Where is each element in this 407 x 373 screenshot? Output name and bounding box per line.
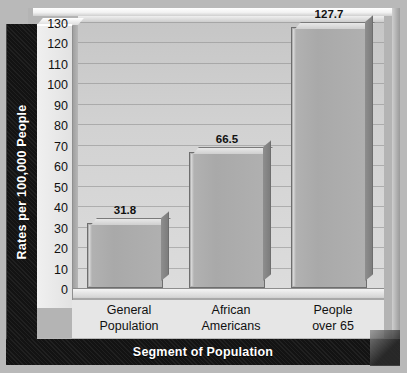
y-tick-label: 80 — [54, 120, 68, 133]
y-tick-label: 60 — [54, 161, 68, 174]
bar[interactable] — [189, 152, 265, 288]
panel-right-bevel — [392, 8, 400, 338]
y-tick-label: 100 — [47, 79, 68, 92]
bar[interactable] — [291, 27, 367, 288]
y-tick-label: 70 — [54, 141, 68, 154]
bar-highlight — [191, 154, 194, 286]
y-tick-label: 130 — [47, 18, 68, 31]
bar-value-label: 66.5 — [179, 133, 275, 145]
y-tick-label: 0 — [61, 284, 68, 297]
y-tick-label: 30 — [54, 222, 68, 235]
y-tick-label: 40 — [54, 202, 68, 215]
x-axis-category-labels: General PopulationAfrican AmericansPeopl… — [72, 300, 384, 338]
y-axis-tick-labels: 1301201101009080706050403020100 — [37, 24, 73, 308]
y-tick-label: 50 — [54, 181, 68, 194]
frame-corner-shadow — [370, 330, 400, 366]
bar-chart-figure: 31.866.5127.7 13012011010090807060504030… — [0, 0, 407, 373]
y-tick-label: 10 — [54, 263, 68, 276]
x-category-label: General Population — [78, 302, 180, 335]
x-category-label: People over 65 — [282, 302, 384, 335]
bar[interactable] — [87, 223, 163, 288]
bar-value-label: 31.8 — [77, 204, 173, 216]
x-category-label: African Americans — [180, 302, 282, 335]
y-tick-label: 110 — [48, 59, 68, 72]
bar-highlight — [293, 29, 296, 286]
bar-value-label: 127.7 — [281, 8, 377, 20]
bar-highlight — [89, 225, 92, 286]
y-axis-title-band: Rates per 100,000 People — [6, 24, 37, 339]
y-axis-title: Rates per 100,000 People — [15, 104, 29, 259]
x-axis-title: Segment of Population — [133, 345, 273, 359]
y-tick-label: 120 — [47, 38, 68, 51]
y-tick-label: 90 — [54, 100, 68, 113]
y-tick-label: 20 — [54, 243, 68, 256]
x-axis-title-band: Segment of Population — [6, 339, 400, 365]
